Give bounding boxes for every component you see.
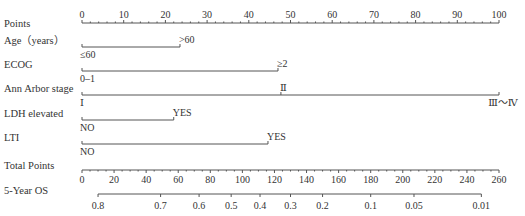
row-label-ann-arbor-stage: Ann Arbor stage	[4, 83, 74, 94]
total-points-tick-label: 80	[205, 174, 215, 185]
points-tick-label: 30	[202, 9, 212, 20]
total-points-tick-label: 220	[427, 174, 442, 185]
survival-axis-label: 5-Year OS	[4, 185, 48, 196]
survival-tick-label: 0.1	[364, 200, 377, 211]
points-axis-label: Points	[4, 18, 30, 29]
points-tick-label: 20	[160, 9, 170, 20]
survival-tick-label: 0.8	[92, 200, 105, 211]
total-points-tick-label: 0	[80, 174, 85, 185]
total-points-tick-label: 180	[363, 174, 378, 185]
level-label: YES	[173, 107, 192, 118]
survival-tick-label: 0.4	[254, 200, 267, 211]
level-label: NO	[80, 122, 94, 133]
total-points-tick-label: 120	[267, 174, 282, 185]
points-tick-label: 40	[244, 9, 254, 20]
survival-tick-label: 0.6	[193, 200, 206, 211]
total-points-tick-label: 20	[109, 174, 119, 185]
points-tick-label: 100	[492, 9, 507, 20]
nomogram-rows: Points0102030405060708090100Age（years）≤6…	[4, 9, 519, 211]
row-label-ldh-elevated: LDH elevated	[4, 108, 64, 119]
level-label: NO	[80, 146, 94, 157]
level-label: ≤60	[80, 49, 96, 60]
total-points-tick-label: 260	[492, 174, 507, 185]
nomogram-chart: Points0102030405060708090100Age（years）≤6…	[0, 0, 525, 216]
level-label: Ⅲ～Ⅳ	[488, 97, 519, 108]
total-points-axis-label: Total Points	[4, 160, 54, 171]
total-points-tick-label: 160	[331, 174, 346, 185]
total-points-tick-label: 200	[395, 174, 410, 185]
row-label-ecog: ECOG	[4, 59, 33, 70]
level-label: Ⅱ	[280, 82, 287, 93]
survival-tick-label: 0.7	[154, 200, 167, 211]
level-label: ≥2	[277, 58, 288, 69]
level-label: Ⅰ	[80, 97, 84, 108]
total-points-tick-label: 60	[173, 174, 183, 185]
survival-tick-label: 0.05	[405, 200, 423, 211]
level-label: >60	[179, 34, 195, 45]
row-label-age-years: Age（years）	[4, 35, 64, 46]
total-points-tick-label: 140	[299, 174, 314, 185]
points-tick-label: 90	[452, 9, 462, 20]
survival-tick-label: 0.01	[473, 200, 491, 211]
level-label: YES	[267, 131, 286, 142]
points-tick-label: 10	[119, 9, 129, 20]
row-label-lti: LTI	[4, 132, 20, 143]
level-label: 0–1	[80, 73, 95, 84]
total-points-tick-label: 240	[459, 174, 474, 185]
points-tick-label: 80	[411, 9, 421, 20]
total-points-tick-label: 100	[235, 174, 250, 185]
points-tick-label: 60	[327, 9, 337, 20]
survival-tick-label: 0.2	[316, 200, 329, 211]
points-tick-label: 0	[80, 9, 85, 20]
points-tick-label: 70	[369, 9, 379, 20]
total-points-tick-label: 40	[141, 174, 151, 185]
points-tick-label: 50	[286, 9, 296, 20]
survival-tick-label: 0.3	[284, 200, 297, 211]
survival-tick-label: 0.5	[225, 200, 238, 211]
